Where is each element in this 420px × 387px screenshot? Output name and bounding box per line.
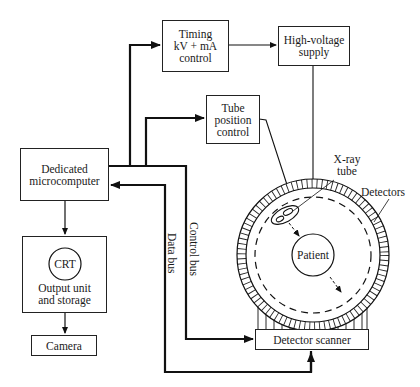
output-line-1: Output unit: [38, 282, 91, 294]
timing-control-block: Timing kV + mA control: [162, 20, 229, 72]
control-bus-line: [108, 166, 253, 339]
timing-line-2: kV + mA: [174, 40, 217, 52]
tube-position-line-1: Tube: [221, 102, 244, 114]
control-bus-label: Control bus: [188, 222, 200, 276]
tube-position-line-2: position: [214, 114, 251, 126]
connector-micro-to-timing: [108, 45, 160, 166]
microcomputer-block: Dedicated microcomputer: [20, 148, 109, 201]
hv-line-1: High-voltage: [284, 34, 345, 46]
micro-line-1: Dedicated: [41, 163, 88, 175]
high-voltage-supply-block: High-voltage supply: [278, 26, 350, 66]
tube-position-control-block: Tube position control: [206, 95, 260, 144]
detector-scanner-block: Detector scanner: [255, 329, 369, 350]
detectors-label: Detectors: [361, 186, 405, 198]
patient-label: Patient: [293, 249, 333, 261]
timing-line-3: control: [179, 52, 212, 64]
xray-tube-line-2: tube: [327, 165, 367, 177]
crt-label: CRT: [45, 258, 85, 270]
camera-block: Camera: [31, 335, 97, 356]
output-unit-block: Output unit and storage: [22, 236, 107, 313]
detector-scanner-label: Detector scanner: [273, 334, 351, 346]
tube-position-line-3: control: [217, 126, 250, 138]
output-line-2: and storage: [38, 294, 91, 306]
xray-tube-line-1: X-ray: [327, 153, 367, 165]
timing-line-1: Timing: [179, 28, 212, 40]
connector-micro-to-tube-position: [146, 118, 204, 166]
hv-line-2: supply: [299, 46, 330, 58]
camera-label: Camera: [46, 340, 82, 352]
connector-tube-position-to-tube: [259, 119, 290, 194]
detectors-leader: [374, 199, 389, 222]
data-bus-label: Data bus: [166, 233, 178, 274]
micro-line-2: microcomputer: [29, 175, 99, 187]
xray-tube-label: X-ray tube: [327, 153, 367, 177]
